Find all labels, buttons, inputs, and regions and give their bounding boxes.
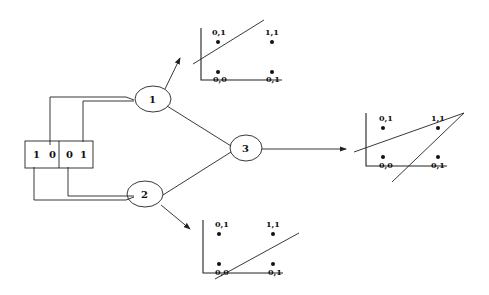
decision-boundary [215, 233, 299, 279]
svg-text:0,1: 0,1 [379, 113, 393, 123]
svg-text:0,1: 0,1 [212, 27, 226, 37]
plot-node-2: 0,1 1,1 0,0 0,1 [203, 219, 299, 279]
svg-text:0,1: 0,1 [266, 74, 280, 84]
input-cell-b-right: 1 [80, 149, 87, 160]
wires-to-node-1 [50, 97, 134, 145]
input-box: 1 0 0 1 [25, 141, 93, 168]
input-cell-b-left: 0 [66, 149, 73, 160]
svg-text:1: 1 [149, 94, 156, 105]
svg-text:0,1: 0,1 [268, 267, 282, 277]
svg-text:0,1: 0,1 [215, 219, 229, 229]
svg-text:2: 2 [141, 189, 148, 200]
input-cell-a-left: 1 [33, 149, 40, 160]
node-3: 3 [230, 135, 262, 161]
svg-text:0,1: 0,1 [431, 160, 445, 170]
wires-to-node-2 [34, 167, 134, 200]
svg-text:0,0: 0,0 [379, 160, 393, 170]
arrow-node2-plot [161, 205, 190, 229]
arrow-node1-plot [165, 58, 180, 89]
neural-network-diagram: 1 0 0 1 1 2 3 0,1 1,1 0,0 0,1 [0, 0, 489, 295]
svg-text:1,1: 1,1 [431, 113, 445, 123]
svg-text:1,1: 1,1 [266, 219, 280, 229]
svg-text:1,1: 1,1 [265, 27, 279, 37]
edge-1-3 [167, 106, 231, 146]
decision-boundary-a [354, 113, 464, 152]
decision-boundary [193, 20, 264, 64]
svg-text:3: 3 [242, 143, 249, 154]
svg-text:0,0: 0,0 [213, 74, 227, 84]
node-1: 1 [135, 86, 171, 112]
input-cell-a-right: 0 [49, 149, 56, 160]
plot-node-1: 0,1 1,1 0,0 0,1 [193, 20, 282, 84]
decision-boundary-b [392, 113, 464, 182]
node-2: 2 [127, 181, 163, 207]
edge-2-3 [163, 152, 231, 195]
plot-node-3: 0,1 1,1 0,0 0,1 [354, 113, 464, 182]
